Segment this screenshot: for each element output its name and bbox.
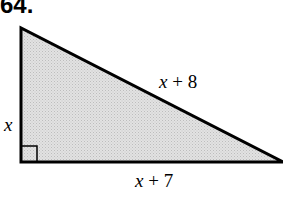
triangle-shape [21, 28, 283, 162]
vertical-leg-label: x [3, 114, 13, 135]
hypotenuse-label: x + 8 [158, 71, 197, 92]
horizontal-leg-label: x + 7 [134, 170, 173, 191]
right-triangle-diagram: x x + 8 x + 7 [0, 0, 283, 210]
